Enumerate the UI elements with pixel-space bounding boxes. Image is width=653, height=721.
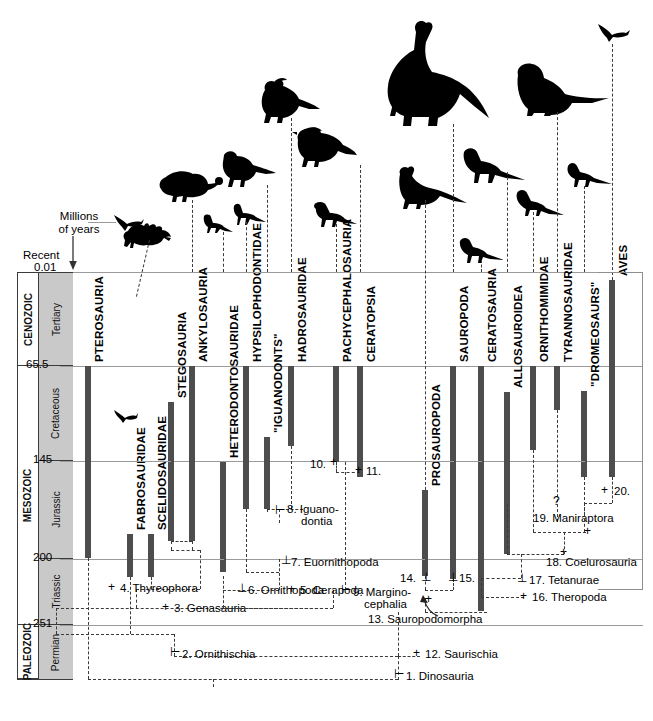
stem-hypsilo-down (246, 509, 247, 572)
range-bar-dromeosaurs (581, 391, 587, 477)
era-mesozoic-label: MESOZOIC (23, 468, 34, 521)
stem-iguanodonts (267, 509, 268, 512)
node20-plus: + (601, 483, 608, 497)
branch-node19 (533, 532, 586, 533)
tick-label-200: 200 (33, 551, 52, 563)
node1-label: 1. Dinosauria (406, 670, 474, 683)
droplink-ankylosauria (192, 200, 193, 272)
taxon-label-tyrannosauridae: TYRANNOSAURIDAE (562, 242, 574, 362)
range-bar-stegosauria (168, 402, 174, 541)
fabrosaurid-glyph-silhouette (113, 408, 139, 424)
node14-label: 14. (400, 572, 416, 585)
pachycephalosaur-silhouette (310, 200, 358, 228)
range-bar-prosauropoda (422, 490, 428, 576)
taxon-label-dromeosaurs: "DROMEOSAURS" (589, 281, 601, 387)
stem-thyreophora-up (200, 550, 201, 589)
range-bar-iguanodonts (264, 437, 270, 509)
node8-plus: ⊢ (275, 503, 285, 517)
prosauropod-silhouette (388, 162, 468, 210)
tyrannosaur-uncertain-marker: ? (553, 494, 560, 508)
taxon-label-pterosauria: PTEROSAURIA (93, 276, 105, 362)
stem-stegosauria (171, 541, 172, 550)
range-bar-fabrosauridae (127, 534, 133, 577)
taxon-label-ceratopsia: CERATOPSIA (365, 286, 377, 362)
branch-node5 (223, 608, 333, 609)
stem-allo-up (507, 504, 508, 554)
range-bar-ornithomimidae (530, 366, 536, 450)
tick-mark-145 (60, 461, 74, 462)
leader-dromeo-145 (559, 461, 585, 462)
range-bar-tyrannosauridae (554, 366, 560, 410)
node16-plus: + (520, 589, 527, 603)
stem-fabrosauridae (130, 577, 131, 634)
node14-plus: ⊥ (421, 570, 431, 584)
branch-thyreophora-top (171, 550, 200, 551)
leader-ceratopsia-top (320, 272, 360, 273)
taxon-label-ornithomimidae: ORNITHOMIMIDAE (538, 256, 550, 362)
leader-stegosauria-145 (129, 461, 171, 462)
droplink-pachycephalosauria (336, 224, 337, 272)
range-bar-scelidosauridae (148, 534, 154, 577)
period-tertiary-label: Tertiary (50, 303, 61, 336)
bracket-right-vertical (642, 272, 643, 590)
period-permian-label: Permian (51, 633, 62, 670)
figure-canvas: CENOZOIC MESOZOIC PALEOZOIC Tertiary Cre… (0, 0, 653, 721)
range-bar-pterosauria (85, 366, 91, 558)
node17-plus: ⊥ (517, 571, 527, 585)
node15-label: 15. (459, 572, 475, 585)
branch-node17 (481, 578, 521, 579)
droplink-ceratopsia (360, 165, 361, 272)
node2-plus: ⊢ (170, 645, 180, 659)
period-triassic-label: Triassic (51, 574, 62, 608)
node15-plus: ⊥ (448, 570, 458, 584)
leader-sauropoda-145 (424, 461, 454, 462)
leader-ceratosauria-145 (456, 461, 482, 462)
node9-plus: ⊢ (341, 583, 351, 597)
era-cenozoic-label: CENOZOIC (23, 293, 34, 346)
era-mesozoic: MESOZOIC (18, 366, 38, 625)
node13-pointer-arrow-icon (415, 594, 441, 620)
leader-hadro-top (240, 272, 292, 273)
taxon-label-hypsilophodontidae: HYPSILOPHODONTIDAE (251, 223, 263, 362)
droplink-sauropoda (453, 124, 454, 272)
era-paleozoic: PALEOZOIC (18, 625, 38, 679)
taxon-label-sauropoda: SAUROPODA (458, 285, 470, 362)
tick-mark-251 (60, 625, 74, 626)
node7-plus: ⊥ (281, 553, 291, 567)
branch-node7 (246, 572, 279, 573)
hypsilophodont-silhouette (229, 200, 267, 226)
branch-dinosauria-base (88, 679, 398, 680)
leader-ceratopsia-145 (363, 461, 425, 462)
node20-label: 20. (614, 485, 630, 498)
dromaeosaur-silhouette (565, 160, 613, 188)
node11-plus: + (355, 463, 362, 477)
allosaur-silhouette (460, 143, 526, 185)
taxon-label-pachycephalosauria: PACHYCEPHALOSAURIA (341, 219, 353, 362)
range-bar-sauropoda (450, 366, 456, 579)
droplink-hypsilophodontidae (246, 222, 247, 272)
droplink-aves (612, 44, 613, 280)
node12-plus: + (413, 646, 420, 660)
droplink-ceratosauria (481, 260, 482, 272)
tick-node1-drop (213, 679, 214, 687)
branch-node20 (584, 503, 612, 504)
taxon-label-scelidosauridae: SCELIDOSAURIDAE (156, 416, 168, 530)
leader-allosauroidea-66 (484, 366, 510, 367)
axis-arrow-icon (66, 236, 80, 272)
droplink-allosauroidea (507, 172, 508, 272)
taxon-label-fabrosauridae: FABROSAURIDAE (135, 427, 147, 530)
period-tertiary: Tertiary (38, 273, 73, 366)
stem-node20-down (584, 503, 585, 532)
pterosaur-wing-silhouette (113, 212, 145, 232)
tick-mark-65 (60, 366, 74, 367)
stem-ceratosauria-down (481, 578, 482, 597)
node10-plus: + (330, 455, 337, 469)
node8-label-a: 8. Iguano- (287, 503, 339, 516)
iguanodont-silhouette (214, 146, 278, 188)
range-bar-ankylosauria (189, 366, 195, 541)
taxon-label-iguanodonts: "IGUANODONTS" (272, 333, 284, 433)
droplink-iguanodonts (267, 185, 268, 272)
range-bar-hypsilophodontidae (243, 366, 249, 509)
ankylosaur-silhouette (155, 163, 223, 205)
bird-silhouette (597, 22, 631, 44)
